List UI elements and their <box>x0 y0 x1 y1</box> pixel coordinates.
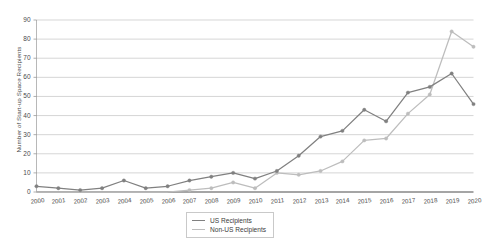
chart-legend: US RecipientsNon-US Recipients <box>186 212 274 238</box>
legend-line-swatch-icon <box>192 220 205 221</box>
legend-entry: Non-US Recipients <box>192 225 266 234</box>
gridlines <box>37 20 474 173</box>
plot-area <box>0 0 484 243</box>
legend-line-swatch-icon <box>192 229 205 230</box>
series-us-recipients <box>35 72 475 192</box>
series-non-us-recipients <box>37 30 476 192</box>
y-tick-marks <box>34 20 37 192</box>
legend-label: Non-US Recipients <box>210 226 266 233</box>
legend-label: US Recipients <box>210 217 252 224</box>
axis-lines <box>37 20 474 192</box>
legend-entry: US Recipients <box>192 216 266 225</box>
line-chart: Number of Start-up Space Recipients 0102… <box>0 0 484 243</box>
